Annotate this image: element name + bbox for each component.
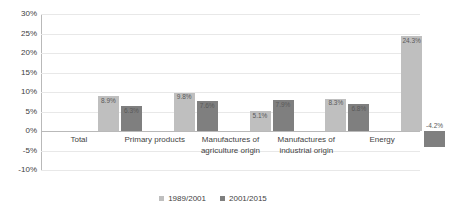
y-tick-neg10: -10% <box>1 166 37 174</box>
clipped-header-text <box>0 0 426 9</box>
legend-item-0[interactable]: 1989/2001 <box>159 194 206 203</box>
y-tick-neg5: -5% <box>1 147 37 155</box>
y-tick-15: 15% <box>1 69 37 77</box>
bar-value-label: 6.8% <box>342 106 376 113</box>
zero-axis-line <box>41 131 420 132</box>
gridline <box>41 170 420 171</box>
bar-series1-4 <box>401 36 422 131</box>
gridline <box>41 34 420 35</box>
bar-value-label: 24.3% <box>395 38 429 45</box>
bar-value-label: 7.6% <box>190 103 224 110</box>
gridline <box>41 92 420 93</box>
bar-value-label: 7.9% <box>266 102 300 109</box>
y-tick-25: 25% <box>1 30 37 38</box>
legend-label: 1989/2001 <box>168 194 206 203</box>
legend-item-1[interactable]: 2001/2015 <box>220 194 267 203</box>
legend-swatch-icon <box>220 196 225 201</box>
gridline <box>41 73 420 74</box>
x-category-line: industrial origin <box>258 145 354 156</box>
legend-label: 2001/2015 <box>229 194 267 203</box>
x-category-4: Energy <box>334 134 430 145</box>
gridline <box>41 14 420 15</box>
gridline <box>41 53 420 54</box>
bar-value-label: 8.9% <box>91 98 125 105</box>
bar-value-label: 9.8% <box>167 94 201 101</box>
y-tick-5: 5% <box>1 108 37 116</box>
x-category-line: Energy <box>334 134 430 145</box>
legend-swatch-icon <box>159 196 164 201</box>
chart-legend: 1989/20012001/2015 <box>0 194 426 203</box>
y-tick-30: 30% <box>1 10 37 18</box>
bar-value-label: 6.3% <box>114 108 148 115</box>
y-tick-10: 10% <box>1 88 37 96</box>
y-tick-20: 20% <box>1 49 37 57</box>
bar-value-label: -4.2% <box>418 123 449 130</box>
